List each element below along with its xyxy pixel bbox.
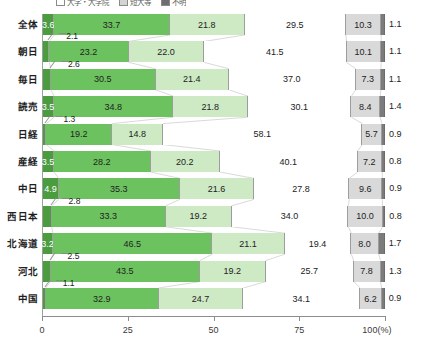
callout-value: 2.1 bbox=[66, 31, 78, 41]
outside-value: 0.9 bbox=[389, 288, 402, 309]
row-label: 毎日 bbox=[0, 69, 38, 90]
segment-callout: 2.5 bbox=[52, 250, 80, 262]
outside-value: 0.8 bbox=[389, 151, 402, 172]
bar-segment-4: 10.1 bbox=[347, 41, 382, 62]
bar-segment-3: 40.1 bbox=[220, 151, 358, 172]
segment-value: 43.5 bbox=[116, 266, 134, 276]
leader-line bbox=[53, 197, 67, 205]
callout-value: 1.1 bbox=[63, 278, 75, 288]
row-label: 西日本 bbox=[0, 206, 38, 227]
bar-segment-4: 7.2 bbox=[358, 151, 383, 172]
row-label: 中日 bbox=[0, 178, 38, 199]
bar-segment-2: 21.8 bbox=[170, 14, 245, 35]
bar-segment-2: 21.8 bbox=[173, 96, 248, 117]
bar-segment-4: 7.8 bbox=[354, 261, 381, 282]
bar-segment-5: 1.1 bbox=[381, 69, 385, 90]
segment-value: 58.1 bbox=[253, 129, 271, 139]
bar-segment-5: 0.8 bbox=[383, 206, 386, 227]
bar-segment-2: 21.4 bbox=[156, 69, 229, 90]
legend-swatch-icon bbox=[119, 0, 128, 6]
segment-value: 19.2 bbox=[223, 266, 241, 276]
stacked-bar: 3.528.220.240.17.20.8 bbox=[42, 151, 385, 172]
segment-callout: 2.1 bbox=[50, 30, 78, 42]
bar-segment-3: 34.0 bbox=[232, 206, 349, 227]
segment-value: 29.5 bbox=[286, 20, 304, 30]
outside-value: 1.4 bbox=[389, 96, 402, 117]
segment-value: 3.5 bbox=[42, 102, 55, 112]
segment-value: 40.1 bbox=[280, 157, 298, 167]
outside-value: 0.8 bbox=[389, 206, 402, 227]
bar-segment-4: 5.7 bbox=[362, 124, 382, 145]
segment-value: 21.8 bbox=[201, 102, 219, 112]
segment-value: 7.3 bbox=[362, 74, 375, 84]
bar-segment-0: 2.6 bbox=[42, 69, 51, 90]
segment-value: 21.4 bbox=[183, 74, 201, 84]
stacked-bar-chart: 大学・大学院短大等不明 全体3.633.721.829.510.31.11.1朝… bbox=[0, 0, 424, 342]
legend-item-label: 短大等 bbox=[130, 0, 151, 6]
leader-line bbox=[47, 115, 61, 123]
bar-segment-3: 41.5 bbox=[204, 41, 346, 62]
leader-line bbox=[47, 279, 61, 287]
bar-segment-2: 21.1 bbox=[212, 233, 284, 254]
segment-value: 27.8 bbox=[292, 184, 310, 194]
bar-segment-2: 19.2 bbox=[200, 261, 266, 282]
leader-line bbox=[50, 32, 64, 40]
stacked-bar: 2.123.222.041.510.11.1 bbox=[42, 41, 385, 62]
x-tick-label: 50 bbox=[208, 325, 218, 335]
bar-segment-5: 1.4 bbox=[380, 96, 385, 117]
x-tick-mark bbox=[214, 316, 215, 321]
segment-value: 35.3 bbox=[110, 184, 128, 194]
chart-row: 産経3.528.220.240.17.20.80.8 bbox=[0, 151, 424, 172]
row-label: 全体 bbox=[0, 14, 38, 35]
segment-value: 3.5 bbox=[42, 157, 55, 167]
outside-value: 1.3 bbox=[389, 261, 402, 282]
bar-segment-1: 19.2 bbox=[46, 124, 112, 145]
segment-value: 3.6 bbox=[42, 20, 55, 30]
stacked-bar: 1.319.214.858.15.70.9 bbox=[42, 124, 385, 145]
x-tick-label: 25 bbox=[123, 325, 133, 335]
bar-segment-1: 32.9 bbox=[46, 288, 159, 309]
segment-value: 32.9 bbox=[93, 294, 111, 304]
segment-value: 10.1 bbox=[355, 47, 373, 57]
segment-value: 3.2 bbox=[41, 239, 54, 249]
stacked-bar: 4.935.321.627.89.60.9 bbox=[42, 178, 385, 199]
bar-segment-1: 33.3 bbox=[52, 206, 166, 227]
leader-line bbox=[52, 252, 66, 260]
segment-value: 19.2 bbox=[189, 211, 207, 221]
bar-segment-4: 10.0 bbox=[348, 206, 382, 227]
segment-value: 10.3 bbox=[354, 20, 372, 30]
segment-value: 22.0 bbox=[157, 47, 175, 57]
segment-value: 7.2 bbox=[363, 157, 376, 167]
segment-value: 19.4 bbox=[309, 239, 327, 249]
stacked-bar: 1.132.924.734.16.20.9 bbox=[42, 288, 385, 309]
callout-value: 2.8 bbox=[69, 196, 81, 206]
chart-row: 日経1.319.214.858.15.70.91.30.9 bbox=[0, 124, 424, 145]
segment-value: 5.7 bbox=[365, 129, 378, 139]
segment-value: 46.5 bbox=[123, 239, 141, 249]
x-tick-label: 0 bbox=[39, 325, 44, 335]
bar-segment-5: 1.1 bbox=[381, 14, 385, 35]
segment-value: 21.6 bbox=[208, 184, 226, 194]
legend-item-label: 大学・大学院 bbox=[67, 0, 109, 6]
chart-row: 西日本2.833.319.234.010.00.82.80.8 bbox=[0, 206, 424, 227]
leader-line bbox=[52, 60, 66, 68]
segment-value: 7.8 bbox=[360, 266, 373, 276]
outside-value: 0.9 bbox=[389, 124, 402, 145]
chart-row: 毎日2.630.521.437.07.31.12.61.1 bbox=[0, 69, 424, 90]
segment-callout: 1.3 bbox=[47, 113, 75, 125]
outside-value: 1.7 bbox=[389, 233, 402, 254]
row-label: 河北 bbox=[0, 261, 38, 282]
segment-value: 34.1 bbox=[293, 294, 311, 304]
bar-segment-1: 28.2 bbox=[54, 151, 151, 172]
bar-segment-3: 25.7 bbox=[266, 261, 354, 282]
bar-segment-3: 27.8 bbox=[254, 178, 349, 199]
x-tick-mark bbox=[42, 316, 43, 321]
legend-swatch-icon bbox=[161, 0, 170, 6]
bar-segment-1: 30.5 bbox=[51, 69, 156, 90]
outside-value: 1.1 bbox=[389, 41, 402, 62]
segment-value: 21.1 bbox=[239, 239, 257, 249]
segment-value: 28.2 bbox=[93, 157, 111, 167]
segment-callout: 1.1 bbox=[47, 277, 75, 289]
outside-value: 1.1 bbox=[389, 14, 402, 35]
stacked-bar: 2.543.519.225.77.81.3 bbox=[42, 261, 385, 282]
